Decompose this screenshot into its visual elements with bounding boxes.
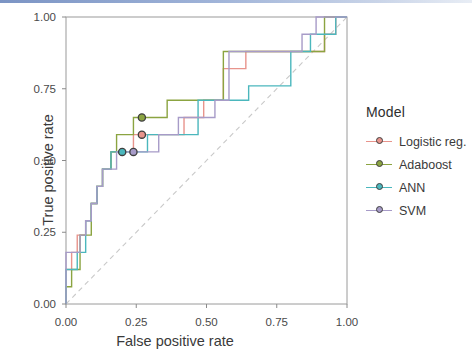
roc-figure: 1.000.750.500.250.00 0.000.250.500.751.0… <box>0 4 472 356</box>
x-tick-label: 1.00 <box>336 316 358 328</box>
slide-top-rule <box>0 0 472 3</box>
legend-key-swatch <box>366 204 392 218</box>
legend-item-logistic-reg[interactable]: Logistic reg. <box>366 130 470 153</box>
operating-point-ann <box>119 148 126 155</box>
legend-title: Model <box>366 104 470 120</box>
legend-item-ann[interactable]: ANN <box>366 176 470 199</box>
legend-key-swatch <box>366 135 392 149</box>
legend-item-svm[interactable]: SVM <box>366 199 470 222</box>
x-tick-label: 0.75 <box>266 316 288 328</box>
legend-key-dot-icon <box>376 160 383 167</box>
x-tick-label: 0.50 <box>195 316 217 328</box>
legend-key-dot-icon <box>376 183 383 190</box>
legend-key-dot-icon <box>376 137 383 144</box>
legend-key-swatch <box>366 181 392 195</box>
x-axis-title: False positive rate <box>0 333 350 349</box>
operating-point-logistic-reg <box>138 131 145 138</box>
legend: Model Logistic reg.AdaboostANNSVM <box>366 104 470 222</box>
legend-items: Logistic reg.AdaboostANNSVM <box>366 130 470 222</box>
x-tick-label: 0.25 <box>125 316 147 328</box>
y-axis-title: True positive rate <box>40 50 56 290</box>
y-tick-label: 0.00 <box>16 298 56 310</box>
legend-item-label: SVM <box>399 204 426 218</box>
legend-item-label: Adaboost <box>399 158 452 172</box>
legend-item-label: ANN <box>399 181 425 195</box>
x-tick-label: 0.00 <box>55 316 77 328</box>
legend-item-label: Logistic reg. <box>399 135 466 149</box>
operating-point-adaboost <box>138 114 145 121</box>
y-tick-label: 1.00 <box>16 11 56 23</box>
operating-point-svm <box>130 148 137 155</box>
legend-item-adaboost[interactable]: Adaboost <box>366 153 470 176</box>
legend-key-swatch <box>366 158 392 172</box>
legend-key-dot-icon <box>376 206 383 213</box>
